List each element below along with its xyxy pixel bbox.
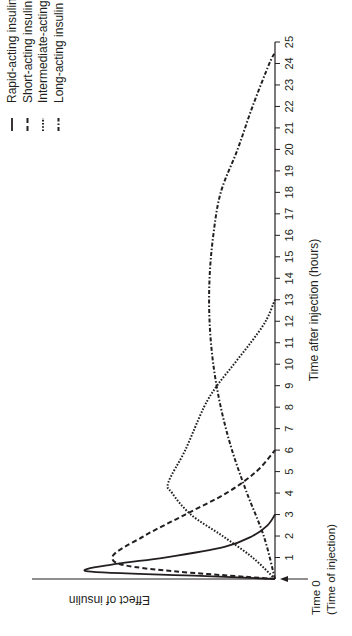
- time-zero-sublabel: (Time of injection): [325, 524, 337, 615]
- tick-label: 17: [283, 208, 295, 220]
- tick-label: 7: [283, 426, 295, 432]
- legend-label: Rapid-acting insulin: [5, 0, 19, 103]
- tick-label: 23: [283, 79, 295, 91]
- tick-label: 3: [283, 511, 295, 517]
- time-zero-label: Time 0: [310, 580, 322, 615]
- tick-label: 8: [283, 404, 295, 410]
- legend: Rapid-acting insulinShort-acting insulin…: [5, 0, 66, 131]
- tick-label: 10: [283, 358, 295, 370]
- tick-label: 9: [283, 383, 295, 389]
- curve-rapid-acting-insulin: [84, 515, 275, 579]
- tick-label: 11: [283, 337, 295, 348]
- tick-label: 21: [283, 122, 295, 134]
- time-axis-ticks: 1234567891011121314151617181920212223242…: [275, 36, 295, 561]
- legend-label: Short-acting insulin: [21, 1, 35, 103]
- tick-label: 2: [283, 533, 295, 539]
- tick-label: 25: [283, 36, 295, 48]
- tick-label: 24: [283, 57, 295, 69]
- tick-label: 16: [283, 229, 295, 241]
- tick-label: 18: [283, 186, 295, 198]
- y-axis-label: Effect of insulin: [69, 593, 150, 607]
- curves: [84, 53, 275, 579]
- tick-label: 6: [283, 447, 295, 453]
- tick-label: 4: [283, 490, 295, 496]
- tick-label: 19: [283, 165, 295, 177]
- tick-label: 12: [283, 315, 295, 327]
- curve-short-acting-insulin: [112, 450, 275, 579]
- time-zero-arrow: [280, 576, 308, 582]
- insulin-effect-chart: Rapid-acting insulinShort-acting insulin…: [0, 0, 352, 636]
- tick-label: 22: [283, 100, 295, 112]
- tick-label: 1: [283, 554, 295, 560]
- tick-label: 20: [283, 143, 295, 155]
- tick-label: 14: [283, 272, 295, 284]
- curve-long-acting-insulin: [209, 53, 275, 579]
- tick-label: 5: [283, 469, 295, 475]
- tick-label: 15: [283, 251, 295, 263]
- x-axis-label: Time after injection (hours): [307, 239, 321, 381]
- curve-intermediate-acting-insulin: [168, 300, 275, 579]
- tick-label: 13: [283, 294, 295, 306]
- legend-label: Intermediate-acting insulin: [36, 0, 50, 103]
- legend-label: Long-acting insulin: [52, 3, 66, 103]
